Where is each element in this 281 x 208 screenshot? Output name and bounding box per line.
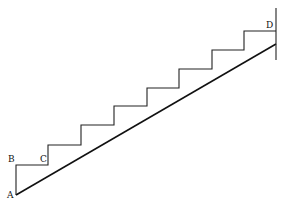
staircase-diagram: A B C D bbox=[0, 0, 281, 208]
label-c: C bbox=[40, 154, 47, 164]
slope-line bbox=[16, 44, 276, 195]
label-d: D bbox=[266, 20, 273, 30]
staircase-profile bbox=[16, 31, 276, 195]
label-a: A bbox=[6, 190, 14, 200]
label-b: B bbox=[8, 154, 15, 164]
